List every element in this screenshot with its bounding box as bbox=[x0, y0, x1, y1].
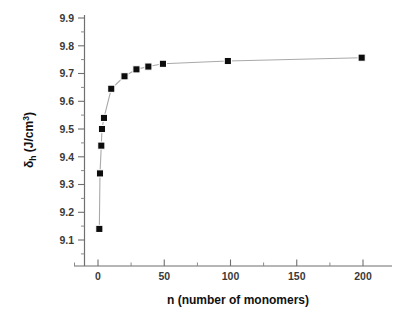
x-axis-title: n (number of monomers) bbox=[167, 293, 309, 307]
data-point bbox=[96, 170, 103, 177]
data-point bbox=[133, 66, 140, 73]
series-markers bbox=[96, 54, 366, 232]
chart-figure: 9.9 9.8 9.7 9.6 9.5 9.4 9.3 9.2 9.1 0 50… bbox=[0, 0, 418, 320]
y-tick-marks bbox=[78, 18, 85, 240]
y-tick-label: 9.1 bbox=[59, 234, 74, 246]
x-tick-label: 100 bbox=[222, 270, 240, 282]
y-tick-label: 9.4 bbox=[59, 151, 74, 163]
x-tick-marks bbox=[98, 260, 363, 267]
series-line bbox=[99, 58, 361, 229]
plot-svg: 9.9 9.8 9.7 9.6 9.5 9.4 9.3 9.2 9.1 0 50… bbox=[0, 0, 418, 320]
y-tick-label: 9.2 bbox=[59, 206, 74, 218]
data-point bbox=[224, 57, 231, 64]
data-point bbox=[108, 85, 115, 92]
data-point bbox=[145, 63, 152, 70]
x-tick-label: 0 bbox=[95, 270, 101, 282]
y-tick-label: 9.3 bbox=[59, 178, 74, 190]
y-tick-label: 9.6 bbox=[59, 95, 74, 107]
y-tick-labels: 9.9 9.8 9.7 9.6 9.5 9.4 9.3 9.2 9.1 bbox=[59, 12, 74, 246]
y-tick-label: 9.9 bbox=[59, 12, 74, 24]
x-tick-label: 50 bbox=[158, 270, 170, 282]
x-tick-label: 200 bbox=[354, 270, 372, 282]
y-axis-title-symbol: δ bbox=[22, 161, 36, 168]
y-tick-label: 9.7 bbox=[59, 67, 74, 79]
data-point bbox=[121, 73, 128, 80]
svg-text:δh (J/cm3): δh (J/cm3) bbox=[21, 112, 38, 168]
data-point bbox=[100, 114, 107, 121]
y-axis-title-units-prefix: (J/cm bbox=[22, 121, 36, 156]
data-point bbox=[98, 142, 105, 149]
y-axis-title: δh (J/cm3) bbox=[21, 112, 38, 168]
y-tick-label: 9.5 bbox=[59, 123, 74, 135]
data-point bbox=[358, 54, 365, 61]
data-point bbox=[159, 60, 166, 67]
data-point bbox=[98, 125, 105, 132]
x-tick-label: 150 bbox=[288, 270, 306, 282]
data-point bbox=[96, 225, 103, 232]
x-tick-labels: 0 50 100 150 200 bbox=[95, 270, 372, 282]
y-axis-title-units-suffix: ) bbox=[22, 112, 36, 116]
y-tick-label: 9.8 bbox=[59, 40, 74, 52]
data-series bbox=[96, 54, 366, 232]
